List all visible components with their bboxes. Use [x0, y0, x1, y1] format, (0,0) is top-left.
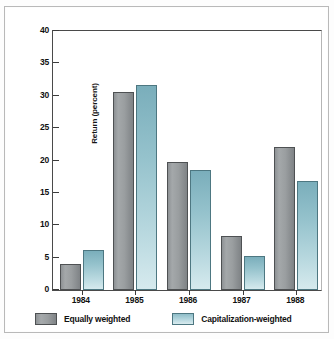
bar[interactable] [113, 92, 134, 290]
bar[interactable] [297, 181, 318, 290]
legend-item[interactable]: Equally weighted [35, 313, 130, 325]
y-axis-tick: 35 [53, 62, 59, 63]
chart-legend: Equally weightedCapitalization-weighted [35, 313, 292, 325]
y-axis-tick-label: 40 [40, 25, 49, 35]
y-axis-tick-label: 30 [40, 90, 49, 100]
bar-group [274, 31, 318, 290]
bar[interactable] [221, 236, 242, 290]
x-axis-label: 1988 [267, 295, 323, 305]
bar[interactable] [136, 85, 157, 290]
x-axis-label: 1985 [106, 295, 162, 305]
legend-label: Equally weighted [64, 314, 130, 324]
x-axis-label: 1984 [53, 295, 109, 305]
bar-group [221, 31, 265, 290]
bar[interactable] [60, 264, 81, 290]
bar[interactable] [274, 147, 295, 290]
y-axis-tick-label: 15 [40, 187, 49, 197]
bar[interactable] [167, 162, 188, 290]
y-axis-tick-label: 10 [40, 219, 49, 229]
bar-group [60, 31, 104, 290]
bar[interactable] [83, 250, 104, 290]
legend-swatch [35, 313, 57, 325]
x-axis-label: 1987 [214, 295, 270, 305]
x-axis-label: 1986 [160, 295, 216, 305]
figure-border: Return (percent) 0510152025303540 198419… [4, 6, 329, 333]
bar-group [167, 31, 211, 290]
y-axis-tick-label: 35 [40, 57, 49, 67]
bar[interactable] [190, 170, 211, 290]
plot-area: Return (percent) 0510152025303540 [52, 30, 322, 291]
y-axis-tick-label: 25 [40, 122, 49, 132]
y-axis-tick-label: 20 [40, 155, 49, 165]
legend-swatch [172, 313, 194, 325]
y-axis-tick: 0 [53, 289, 59, 290]
y-axis-tick-label: 0 [44, 284, 49, 294]
y-axis-tick: 10 [53, 224, 59, 225]
y-axis-tick: 20 [53, 160, 59, 161]
legend-label: Capitalization-weighted [201, 314, 291, 324]
y-axis-tick: 5 [53, 257, 59, 258]
y-axis-tick: 30 [53, 95, 59, 96]
legend-item[interactable]: Capitalization-weighted [172, 313, 291, 325]
figure: Return (percent) 0510152025303540 198419… [0, 0, 334, 339]
y-axis-tick: 15 [53, 192, 59, 193]
y-axis-tick: 25 [53, 127, 59, 128]
y-axis-tick: 40 [53, 30, 59, 31]
bar-group [113, 31, 157, 290]
bar[interactable] [244, 256, 265, 290]
y-axis-tick-label: 5 [44, 252, 49, 262]
